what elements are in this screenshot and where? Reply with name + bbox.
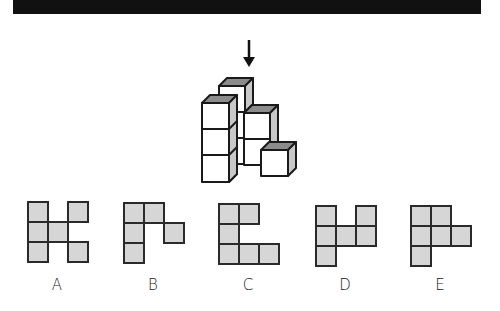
option-label: D xyxy=(330,276,360,294)
option-label: B xyxy=(138,276,168,294)
option-e[interactable] xyxy=(410,205,470,265)
grid-cell xyxy=(258,243,280,265)
option-d[interactable] xyxy=(315,205,375,265)
down-arrow-icon xyxy=(243,40,255,67)
option-label: E xyxy=(425,276,455,294)
grid-cell xyxy=(355,205,377,227)
grid-cell xyxy=(238,203,260,225)
grid-cell xyxy=(410,225,432,247)
grid-cell xyxy=(218,203,240,225)
grid-cell xyxy=(238,243,260,265)
option-label: C xyxy=(233,276,263,294)
grid-cell xyxy=(410,205,432,227)
grid-cell xyxy=(315,205,337,227)
grid-cell xyxy=(410,245,432,267)
grid-cell xyxy=(143,202,165,224)
grid-cell xyxy=(123,242,145,264)
grid-cell xyxy=(335,225,357,247)
cube-figure xyxy=(0,0,500,200)
option-b[interactable] xyxy=(123,202,183,262)
grid-cell xyxy=(450,225,472,247)
grid-cell xyxy=(47,221,69,243)
grid-cell xyxy=(355,225,377,247)
grid-cell xyxy=(27,201,49,223)
grid-cell xyxy=(315,245,337,267)
option-label: A xyxy=(42,276,72,294)
grid-cell xyxy=(430,225,452,247)
grid-cell xyxy=(218,223,240,245)
grid-cell xyxy=(67,241,89,263)
grid-cell xyxy=(430,205,452,227)
grid-cell xyxy=(123,202,145,224)
option-c[interactable] xyxy=(218,203,278,263)
grid-cell xyxy=(27,241,49,263)
grid-cell xyxy=(315,225,337,247)
grid-cell xyxy=(123,222,145,244)
grid-cell xyxy=(67,201,89,223)
option-a[interactable] xyxy=(27,201,87,261)
grid-cell xyxy=(163,222,185,244)
cube-front-left-column xyxy=(202,95,237,182)
cube-front-right xyxy=(261,142,296,176)
grid-cell xyxy=(27,221,49,243)
grid-cell xyxy=(218,243,240,265)
